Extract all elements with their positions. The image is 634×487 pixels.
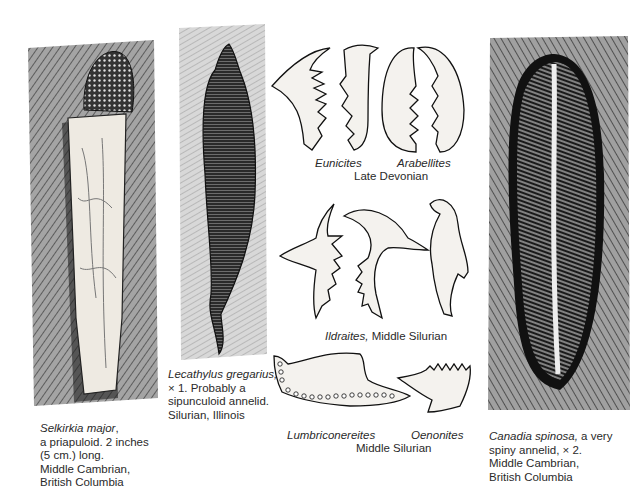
caption-line: Middle Cambrian, <box>40 463 170 477</box>
caption-line: British Columbia <box>40 476 170 487</box>
label-lumbriconereites: Lumbriconereites <box>287 429 375 442</box>
caption-line: Silurian, Illinois <box>168 409 288 423</box>
lumbriconereites-oenonites-illustration <box>270 350 475 420</box>
selkirkia-illustration <box>22 38 162 410</box>
caption-line: spiny annelid, × 2. <box>489 444 634 458</box>
ildraites-name: Ildraites, <box>325 330 368 342</box>
label-oenonites: Oenonites <box>411 429 463 442</box>
caption-selkirkia: Selkirkia major, a priapuloid. 2 inches … <box>40 422 170 487</box>
label-late-devonian: Late Devonian <box>354 170 428 183</box>
ildraites-period: Middle Silurian <box>372 330 447 342</box>
caption-lecathylus: Lecathylus gregarius, × 1. Probably a si… <box>168 368 288 422</box>
label-ildraites: Ildraites, Middle Silurian <box>325 330 447 343</box>
canadia-illustration <box>484 34 632 412</box>
label-middle-silurian: Middle Silurian <box>356 442 431 455</box>
label-arabellites: Arabellites <box>397 157 451 170</box>
caption-line: a very <box>581 430 612 442</box>
lecathylus-illustration <box>175 24 270 364</box>
ildraites-illustration <box>272 194 472 324</box>
eunicites-arabellites-illustration <box>268 40 474 158</box>
caption-line: a priapuloid. 2 inches <box>40 436 170 450</box>
caption-line: (5 cm.) long. <box>40 449 170 463</box>
label-eunicites: Eunicites <box>315 157 362 170</box>
caption-line: × 1. Probably a <box>168 382 288 396</box>
caption-line: sipunculoid annelid. <box>168 395 288 409</box>
selkirkia-name: Selkirkia major <box>40 422 115 434</box>
caption-line: Middle Cambrian, <box>489 457 634 471</box>
canadia-name: Canadia spinosa, <box>489 430 578 442</box>
caption-canadia: Canadia spinosa, a very spiny annelid, ×… <box>489 430 634 484</box>
lecathylus-name: Lecathylus gregarius, <box>168 368 277 380</box>
caption-line: British Columbia <box>489 471 634 485</box>
